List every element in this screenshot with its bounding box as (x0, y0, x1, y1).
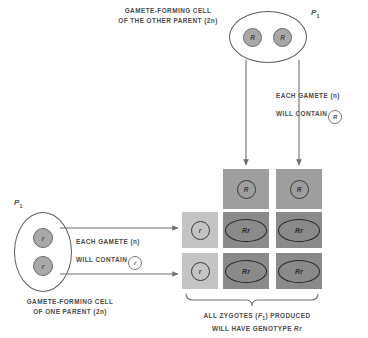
offspring-brace (186, 294, 318, 306)
connector-overlay (0, 0, 368, 338)
f1-sub: 1 (262, 315, 265, 321)
offspring-caption-line2: WILL HAVE GENOTYPE Rr (182, 324, 332, 334)
offspring-caption: ALL ZYGOTES (F1) PRODUCED WILL HAVE GENO… (182, 311, 332, 333)
offspring-genotype: Rr (294, 325, 302, 332)
genetics-diagram: GAMETE-FORMING CELL OF THE OTHER PARENT … (0, 0, 368, 338)
offspring-caption-line1: ALL ZYGOTES (F1) PRODUCED (182, 311, 332, 324)
